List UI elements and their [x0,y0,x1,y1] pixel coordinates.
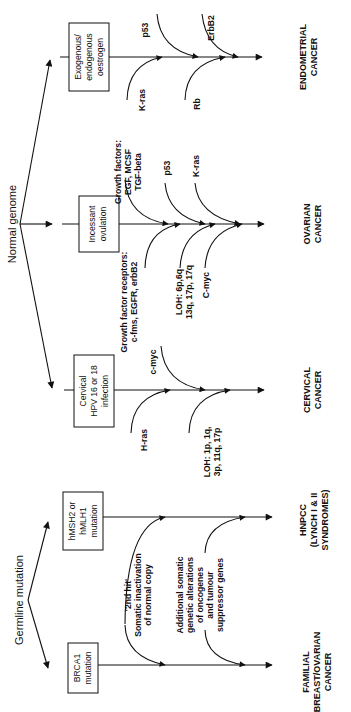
arrow-to-brca [28,600,48,668]
trigger-line: Cervical [78,375,88,406]
outcome-brca: CANCER [323,652,333,691]
trigger-line: oestrogen [95,38,105,76]
pathway-endometrial: Exogenous/ endogenous oestrogen p53 ErbB… [60,14,319,111]
hit-label-loh: LOH: 6p,6q [174,269,184,315]
hit-label-cmyc: c-myc [148,349,158,374]
hit-arrow-rb [185,57,225,100]
hit-label-growth-factors: EGF, MCSF [123,149,133,195]
outcome-brca: BREAST/OVARIAN [312,632,322,712]
trigger-line: endogenous [84,33,94,80]
additional-arrow-brca [205,630,245,665]
additional-label: genetic alterations [185,557,195,633]
trigger-line: ovulation [98,207,108,242]
hit-label-erbb2: ErbB2 [206,15,216,41]
hit-label-loh: 3p, 11q, 17p [212,428,222,477]
second-hit-label: Somatic inactivation [133,553,143,637]
pathway-brca1: BRCA1 mutation FAMILIAL BREAST/OVARIAN C… [68,632,333,712]
outcome-ovarian: CANCER [313,204,323,243]
outcome-endometrial: ENDOMETRIAL [298,24,308,90]
hit-arrow-loh [180,224,215,268]
additional-arrow-hnpcc [205,517,245,553]
arrow-to-cervical [20,224,52,388]
shared-hits: '2nd hit' Somatic inactivation of normal… [123,517,245,665]
outcome-hnpcc: (LYNCH I & II [309,493,319,548]
normal-genome-label: Normal genome [6,185,18,263]
hit-arrow-gf-receptors [145,224,180,268]
hit-arrow-hras [131,390,170,433]
hit-label-growth-factors: Growth factors: [113,140,123,204]
outcome-brca: FAMILIAL [301,651,311,693]
second-hit-arrow-brca [125,625,165,665]
hit-arrow-kras [195,183,240,224]
hit-arrow-cmyc [161,346,205,390]
hit-label-loh: LOH: 1p, 1q, [202,427,212,478]
outcome-cervical: CANCER [313,370,323,409]
normal-genome-root: Normal genome [6,60,52,388]
outcome-endometrial: CANCER [309,37,319,76]
hit-label-cmyc: C-myc [201,272,211,298]
germline-mutation-label: Germline mutation [13,555,25,645]
trigger-line: BRCA1 [72,653,82,682]
hit-label-kras: K-ras [137,89,147,111]
trigger-line: hMLH1 [78,507,88,535]
trigger-line: Exogenous/ [73,34,83,80]
outcome-hnpcc: SYNDROMES) [320,489,330,550]
hit-arrow-cmyc [205,224,242,268]
trigger-line: infection [100,375,110,407]
outcome-cervical: CERVICAL [302,367,312,413]
hit-label-hras: H-ras [139,429,149,451]
hit-label-growth-factors: TGF-beta [133,153,143,191]
trigger-line: mutation [89,504,99,537]
trigger-line: mutation [83,651,93,684]
hit-arrow-p53 [165,183,205,224]
pathway-hnpcc: hMSH2 or hMLH1 mutation HNPCC (LYNCH I &… [63,489,330,550]
second-hit-label: '2nd hit' [123,579,133,611]
trigger-line: hMSH2 or [67,502,77,541]
germline-mutation-root: Germline mutation [13,522,48,668]
hit-label-loh: 13q, 17p, 17q [184,265,194,319]
additional-label: suppressor genes [215,558,225,632]
hit-label-p53: p53 [162,160,172,175]
hit-label-rb: Rb [192,98,202,109]
additional-label: Additional somatic [175,556,185,633]
additional-label: and tumour [205,571,215,619]
hit-arrow-p53 [157,14,198,57]
hit-label-p53: p53 [140,22,150,37]
hit-label-gf-receptors: Growth factor receptors: [119,251,129,352]
outcome-ovarian: OVARIAN [302,204,312,245]
pathway-cervical: Cervical HPV 16 or 18 infection c-myc H-… [64,346,323,477]
hit-label-kras: K-ras [191,155,201,177]
hit-label-gf-receptors: c-fms, EGFR, erbB2 [129,261,139,342]
trigger-line: Incessant [87,205,97,242]
outcome-hnpcc: HNPCC [298,504,308,537]
second-hit-label: of normal copy [143,564,153,626]
additional-label: of oncogenes [195,567,205,623]
pathway-ovarian: Incessant ovulation Growth factors: EGF,… [62,140,323,353]
trigger-line: HPV 16 or 18 [89,365,99,417]
arrow-to-endometrial [20,60,50,224]
arrow-to-hnpcc [28,522,48,600]
cancer-pathways-diagram: Normal genome Germline mutation Exogenou… [0,0,351,712]
hit-arrow-loh [189,390,230,433]
